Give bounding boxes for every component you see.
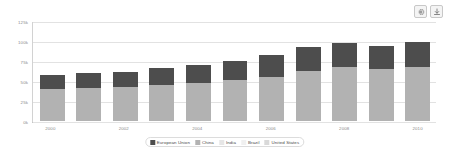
legend-label: European Union <box>157 140 190 145</box>
bar-column[interactable] <box>290 22 327 121</box>
legend-item[interactable]: European Union <box>150 140 190 145</box>
gear-icon[interactable] <box>414 5 427 18</box>
bar-segment[interactable] <box>186 65 211 83</box>
bar-segment[interactable] <box>332 43 357 68</box>
bar-segment[interactable] <box>259 55 284 77</box>
bar-segment[interactable] <box>369 69 394 121</box>
legend-swatch <box>219 140 224 145</box>
y-axis-tick-label: 100k <box>2 40 28 45</box>
bar-column[interactable] <box>217 22 254 121</box>
bar-segment[interactable] <box>113 87 138 121</box>
legend-swatch <box>195 140 200 145</box>
bar-column[interactable] <box>253 22 290 121</box>
y-axis-tick-label: 125k <box>2 20 28 25</box>
bar-stack[interactable] <box>40 75 65 121</box>
bar-stack[interactable] <box>332 43 357 121</box>
x-axis-tick-label: 2004 <box>192 126 202 131</box>
legend-swatch <box>265 140 270 145</box>
bar-segment[interactable] <box>296 47 321 71</box>
bar-segment[interactable] <box>76 88 101 121</box>
chart-legend: European UnionChinaIndiaBrazilUnited Sta… <box>145 137 304 147</box>
x-axis-tick-label: 2000 <box>45 126 55 131</box>
y-axis-tick-label: 50k <box>2 80 28 85</box>
x-axis-tick-label: 2006 <box>266 126 276 131</box>
bar-stack[interactable] <box>259 55 284 121</box>
bar-column[interactable] <box>107 22 144 121</box>
bar-series-container <box>34 22 436 121</box>
bar-segment[interactable] <box>223 80 248 121</box>
legend-item[interactable]: United States <box>265 140 300 145</box>
bar-column[interactable] <box>363 22 400 121</box>
bar-segment[interactable] <box>296 71 321 121</box>
bar-segment[interactable] <box>186 83 211 121</box>
bar-segment[interactable] <box>369 46 394 69</box>
bar-stack[interactable] <box>296 47 321 121</box>
bar-segment[interactable] <box>149 68 174 85</box>
download-icon[interactable] <box>430 5 443 18</box>
bar-stack[interactable] <box>186 65 211 121</box>
bar-segment[interactable] <box>40 75 65 89</box>
legend-swatch <box>241 140 246 145</box>
legend-label: India <box>226 140 236 145</box>
legend-item[interactable]: Brazil <box>241 140 260 145</box>
x-axis-tick-label: 2002 <box>119 126 129 131</box>
x-axis-tick-label: 2010 <box>413 126 423 131</box>
legend-item[interactable]: China <box>195 140 214 145</box>
bar-column[interactable] <box>144 22 181 121</box>
bar-segment[interactable] <box>40 89 65 121</box>
bar-stack[interactable] <box>223 61 248 121</box>
bar-segment[interactable] <box>259 77 284 121</box>
bar-stack[interactable] <box>369 46 394 121</box>
bar-column[interactable] <box>180 22 217 121</box>
bar-column[interactable] <box>326 22 363 121</box>
plot-area <box>32 22 436 123</box>
bar-column[interactable] <box>34 22 71 121</box>
bar-column[interactable] <box>71 22 108 121</box>
bar-segment[interactable] <box>149 85 174 121</box>
legend-swatch <box>150 140 155 145</box>
legend-label: Brazil <box>248 140 260 145</box>
bar-stack[interactable] <box>149 68 174 121</box>
chart-toolbar <box>414 5 443 18</box>
gridline <box>33 122 436 123</box>
bar-segment[interactable] <box>405 67 430 121</box>
y-axis-tick-label: 0k <box>2 120 28 125</box>
stacked-bar-chart-widget: 125k100k75k50k25k0k 20002002200420062008… <box>0 0 449 159</box>
bar-stack[interactable] <box>76 73 101 121</box>
bar-segment[interactable] <box>113 72 138 87</box>
bar-segment[interactable] <box>405 42 430 67</box>
bar-stack[interactable] <box>113 72 138 121</box>
bar-segment[interactable] <box>332 67 357 121</box>
y-axis-tick-label: 25k <box>2 100 28 105</box>
legend-item[interactable]: India <box>219 140 236 145</box>
x-axis-tick-label: 2008 <box>339 126 349 131</box>
bar-segment[interactable] <box>223 61 248 80</box>
bar-segment[interactable] <box>76 73 101 88</box>
bar-stack[interactable] <box>405 42 430 121</box>
legend-label: United States <box>272 140 300 145</box>
y-axis-tick-label: 75k <box>2 60 28 65</box>
bar-column[interactable] <box>399 22 436 121</box>
legend-label: China <box>202 140 214 145</box>
